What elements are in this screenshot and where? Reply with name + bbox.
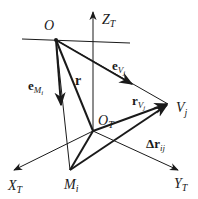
label-M: Mi — [63, 177, 79, 194]
label-Y-axis: YT — [174, 176, 189, 193]
vector-e-V — [56, 40, 132, 84]
label-V: Vj — [176, 100, 188, 118]
label-Z-axis: ZT — [102, 12, 117, 29]
label-r: r — [75, 73, 81, 88]
y-axis — [93, 131, 178, 170]
label-r-V: rVj — [132, 93, 145, 112]
label-delta-r: Δrij — [146, 136, 165, 153]
label-e-M: eMi — [28, 78, 43, 97]
label-O-T: OT — [98, 113, 115, 130]
vector-diagram: O ZT eVj r eMi rVj Vj OT Δrij XT Mi YT — [0, 0, 198, 199]
label-X-axis: XT — [7, 178, 24, 195]
point-O — [54, 38, 58, 42]
reference-line — [22, 39, 130, 43]
label-O: O — [44, 18, 54, 33]
